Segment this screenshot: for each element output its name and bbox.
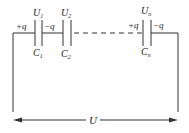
cn-label: Cn bbox=[141, 46, 151, 58]
series-capacitor-circuit: U1 U2 Un +q −q +q −q C1 C2 Cn U bbox=[0, 0, 189, 133]
c1-label: C1 bbox=[33, 47, 43, 59]
plus-q-label-n: +q bbox=[128, 20, 139, 30]
arrowhead-right-icon bbox=[169, 118, 178, 123]
plus-q-label-1: +q bbox=[16, 21, 27, 31]
u2-label: U2 bbox=[61, 7, 71, 19]
minus-q-label-1: −q bbox=[44, 21, 55, 31]
un-label: Un bbox=[141, 5, 151, 17]
u1-label: U1 bbox=[33, 7, 43, 19]
total-voltage-label: U bbox=[89, 114, 98, 126]
c2-label: C2 bbox=[61, 48, 71, 60]
arrowhead-left-icon bbox=[13, 118, 22, 123]
minus-q-label-n: −q bbox=[153, 20, 164, 30]
